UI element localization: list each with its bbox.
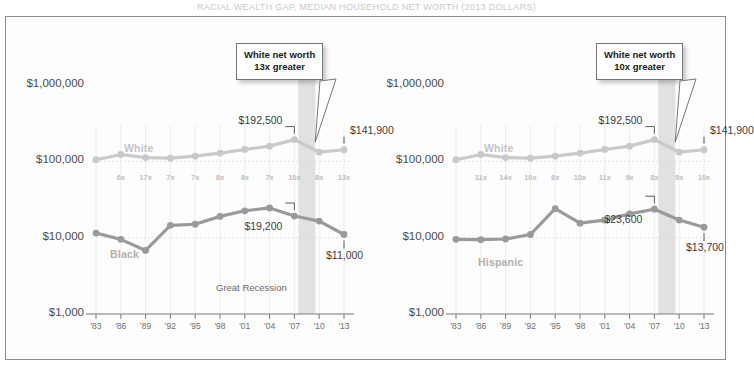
plot-area-black: $1,000,000$100,000$10,000$1,000'83'86'89…	[6, 17, 366, 359]
plot-area-hispanic: $1,000,000$100,000$10,000$1,000'83'86'89…	[366, 17, 726, 359]
chart-panel-hispanic: $1,000,000$100,000$10,000$1,000'83'86'89…	[366, 17, 726, 359]
chart-frame: $1,000,000$100,000$10,000$1,000'83'86'89…	[5, 16, 726, 360]
callout-tail	[366, 17, 726, 359]
clipped-chart-title: RACIAL WEALTH GAP, MEDIAN HOUSEHOLD NET …	[0, 0, 733, 14]
chart-panel-black: $1,000,000$100,000$10,000$1,000'83'86'89…	[6, 17, 366, 359]
callout-tail	[6, 17, 366, 359]
